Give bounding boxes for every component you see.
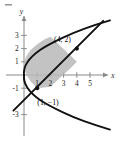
x-axis-label: x [110,71,115,80]
plot-canvas: 1 2 3 4 5 3 2 1 -1 -3 x y (4, 2) (1, −1) [0,0,124,144]
x-tick-label-3: 3 [62,79,66,88]
x-axis-arrow-icon [103,73,108,78]
y-axis-arrow-icon [22,16,27,21]
math-figure-parabola-line: 1 2 3 4 5 3 2 1 -1 -3 x y (4, 2) (1, −1) [0,0,124,144]
corner-mark-icon [5,4,12,6]
upper-point-annotation: (4, 2) [54,35,71,44]
y-tick-label-3: 3 [15,31,19,40]
y-tick-label-neg1: -1 [12,84,18,93]
lower-point-annotation: (1, −1) [37,98,59,107]
x-tick-label-4: 4 [75,79,79,88]
y-tick-label-2: 2 [15,44,19,53]
intersection-point-upper [75,47,79,51]
y-tick-label-neg3: -3 [12,110,18,119]
y-axis-label: y [19,7,24,16]
y-tick-label-1: 1 [15,57,19,66]
x-tick-label-2: 2 [49,79,53,88]
x-tick-label-5: 5 [88,79,92,88]
x-tick-label-1: 1 [35,79,39,88]
